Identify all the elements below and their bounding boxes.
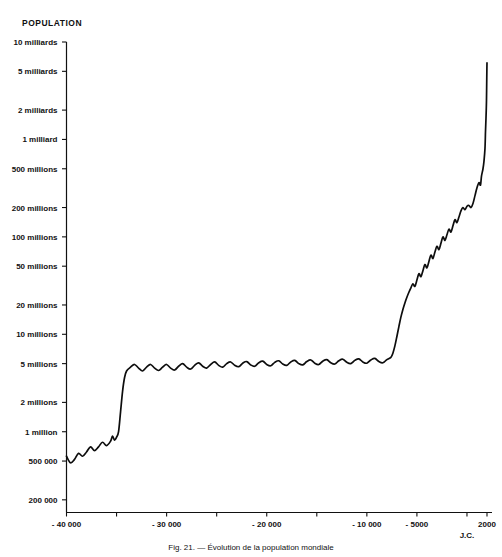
jc-marker-label: J.C.	[460, 531, 475, 540]
y-tick-label: 200 millions	[0, 203, 58, 212]
y-tick-label: 5 milliards	[0, 67, 58, 76]
y-tick-label: 1 milliard	[0, 135, 58, 144]
y-tick-label: 10 milliards	[0, 38, 58, 47]
x-tick-label: - 20 000	[252, 520, 281, 529]
chart-plot-area	[0, 0, 502, 557]
population-chart-figure: POPULATION 200 000500 0001 million2 mill…	[0, 0, 502, 557]
x-tick-label: - 30 000	[152, 520, 181, 529]
x-tick-label: 2000	[478, 520, 496, 529]
y-tick-label: 10 millions	[0, 330, 58, 339]
population-curve	[67, 63, 487, 463]
y-tick-label: 200 000	[0, 495, 58, 504]
y-tick-label: 100 millions	[0, 232, 58, 241]
x-tick-label: - 10 000	[352, 520, 381, 529]
y-tick-label: 1 million	[0, 427, 58, 436]
y-tick-label: 2 millions	[0, 398, 58, 407]
y-tick-label: 500 millions	[0, 164, 58, 173]
figure-caption: Fig. 21. — Évolution de la population mo…	[0, 543, 502, 552]
axes	[62, 42, 492, 517]
y-axis-ticks	[62, 42, 67, 500]
x-tick-label: - 40 000	[52, 520, 81, 529]
chart-title: POPULATION	[22, 18, 82, 28]
y-tick-label: 20 millions	[0, 300, 58, 309]
y-tick-label: 500 000	[0, 457, 58, 466]
x-tick-label: - 5000	[406, 520, 429, 529]
y-tick-label: 5 millions	[0, 359, 58, 368]
y-tick-label: 2 milliards	[0, 106, 58, 115]
y-tick-label: 50 millions	[0, 262, 58, 271]
